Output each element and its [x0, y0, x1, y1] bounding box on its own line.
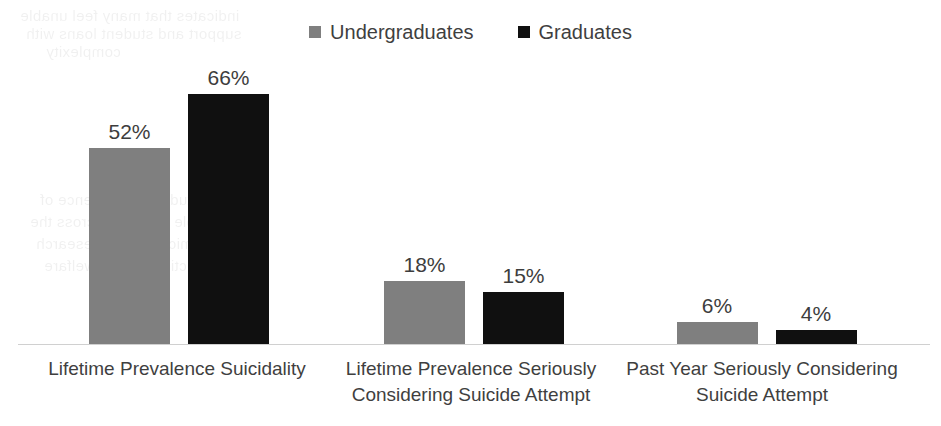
- bar-value-label: 18%: [403, 253, 445, 276]
- bar-item[interactable]: 4%: [776, 302, 857, 344]
- square-marker-icon: [518, 26, 530, 38]
- bar-value-label: 4%: [801, 302, 831, 325]
- category-axis-labels: Lifetime Prevalence Suicidality Lifetime…: [0, 356, 941, 420]
- square-marker-icon: [309, 26, 321, 38]
- bar-item[interactable]: 66%: [188, 66, 269, 344]
- scan-bleed-text: complexity: [46, 42, 121, 62]
- bar-graduates[interactable]: [188, 94, 269, 344]
- legend-label: Undergraduates: [330, 22, 473, 42]
- bar-group: 6% 4%: [646, 60, 887, 344]
- category-label-line: Lifetime Prevalence Suicidality: [22, 356, 332, 382]
- bar-item[interactable]: 52%: [89, 120, 170, 344]
- bar-item[interactable]: 18%: [384, 253, 465, 344]
- bar-undergraduates[interactable]: [89, 148, 170, 344]
- bar-group: 18% 15%: [354, 60, 594, 344]
- category-label-lifetime-prevalence-seriously-considering-suicide-attempt: Lifetime Prevalence Seriously Considerin…: [332, 356, 610, 408]
- bar-value-label: 15%: [502, 264, 544, 287]
- bar-graduates[interactable]: [483, 292, 564, 344]
- plot-area: 52% 66% 18% 15%: [0, 60, 941, 345]
- bar-graduates[interactable]: [776, 330, 857, 344]
- bar-group: 52% 66%: [61, 60, 297, 344]
- bar-value-label: 66%: [207, 66, 249, 89]
- bar-undergraduates[interactable]: [384, 281, 465, 344]
- legend-item-graduates[interactable]: Graduates: [518, 22, 632, 42]
- category-label-line: Past Year Seriously Considering: [612, 356, 912, 382]
- bar-value-label: 52%: [108, 120, 150, 143]
- bar-item[interactable]: 6%: [677, 294, 758, 344]
- chart-legend: Undergraduates Graduates: [0, 22, 941, 42]
- bar-undergraduates[interactable]: [677, 322, 758, 344]
- bar-value-label: 6%: [702, 294, 732, 317]
- category-label-line: Suicide Attempt: [612, 382, 912, 408]
- category-axis-line: [18, 344, 930, 345]
- legend-label: Graduates: [539, 22, 632, 42]
- category-label-lifetime-prevalence-suicidality: Lifetime Prevalence Suicidality: [22, 356, 332, 382]
- bar-item[interactable]: 15%: [483, 264, 564, 344]
- category-label-past-year-seriously-considering-suicide-attempt: Past Year Seriously Considering Suicide …: [612, 356, 912, 408]
- category-label-line: Lifetime Prevalence Seriously: [332, 356, 610, 382]
- bar-chart: indicates that many feel unable support …: [0, 0, 941, 426]
- category-label-line: Considering Suicide Attempt: [332, 382, 610, 408]
- legend-item-undergraduates[interactable]: Undergraduates: [309, 22, 473, 42]
